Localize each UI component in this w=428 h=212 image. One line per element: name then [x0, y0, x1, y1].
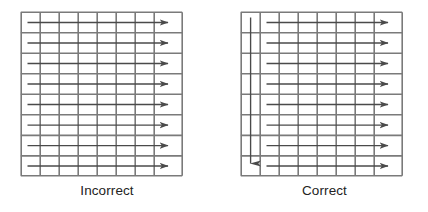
incorrect-diagram	[20, 11, 183, 177]
incorrect-grid-svg	[20, 11, 183, 177]
reinforcement-comparison-figure: Incorrect	[0, 0, 428, 212]
caption-correct: Correct	[214, 182, 428, 200]
correct-diagram	[240, 11, 403, 177]
figure-incorrect: Incorrect	[0, 0, 214, 212]
caption-incorrect: Incorrect	[0, 182, 214, 200]
correct-grid-svg	[240, 11, 403, 177]
figure-correct: Correct	[214, 0, 428, 212]
